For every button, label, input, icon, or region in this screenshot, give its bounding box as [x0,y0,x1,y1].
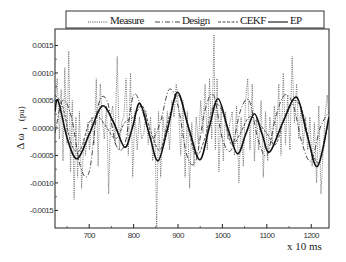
y-tick-label: -0.0010 [30,179,54,188]
x-axis: 700800900100011001200 [67,224,320,240]
x-tick-label: 800 [128,231,141,240]
x-tick-label: 700 [83,231,96,240]
legend-label-design: Design [182,14,211,26]
legend: MeasureDesignCEKFEP [66,11,324,28]
y-label-unit: (pu) [16,106,26,121]
chart: MeasureDesignCEKFEP 0.00150.00100.00050.… [0,0,346,262]
y-axis-title: Δ ω 1 (pu) [14,106,29,149]
x-tick-label: 900 [172,231,185,240]
y-tick-label: 0.0015 [32,41,54,50]
y-label-sub: 1 [21,127,29,131]
x-tick-label: 1200 [304,231,321,240]
x-tick-label: 1000 [215,231,232,240]
y-tick-label: 0.0000 [32,124,54,133]
y-tick-label: 0.0010 [32,69,54,78]
legend-label-ep: EP [290,14,302,26]
x-tick-label: 1100 [259,231,275,240]
y-axis: 0.00150.00100.00050.0000-0.0005-0.0010-0… [30,41,58,215]
series-layer [55,35,329,227]
x-axis-title: x 10 ms [287,240,322,252]
plot-frame [55,29,329,228]
y-tick-label: -0.0005 [30,151,54,160]
svg-text:Δ ω 1 (pu): Δ ω 1 (pu) [14,106,29,149]
legend-label-cekf: CEKF [240,14,266,26]
y-label-main: Δ ω [14,133,26,149]
series-measure [55,35,329,227]
legend-label-measure: Measure [110,14,144,26]
series-design [55,89,329,177]
y-tick-label: -0.0015 [30,206,54,215]
y-tick-label: 0.0005 [32,96,54,105]
